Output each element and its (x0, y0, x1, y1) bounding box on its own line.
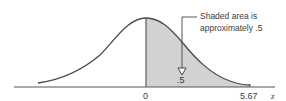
x-tick-zero: 0 (143, 92, 148, 101)
area-value-label: .5 (177, 76, 185, 85)
annotation-line-2: approximately .5 (200, 24, 262, 33)
annotation-line-1: Shaded area is (200, 12, 257, 21)
normal-curve-figure: Shaded area is approximately .5 .5 0 5.6… (0, 0, 286, 101)
x-tick-max: 5.67 (240, 92, 258, 101)
x-axis-label: z (271, 92, 275, 101)
